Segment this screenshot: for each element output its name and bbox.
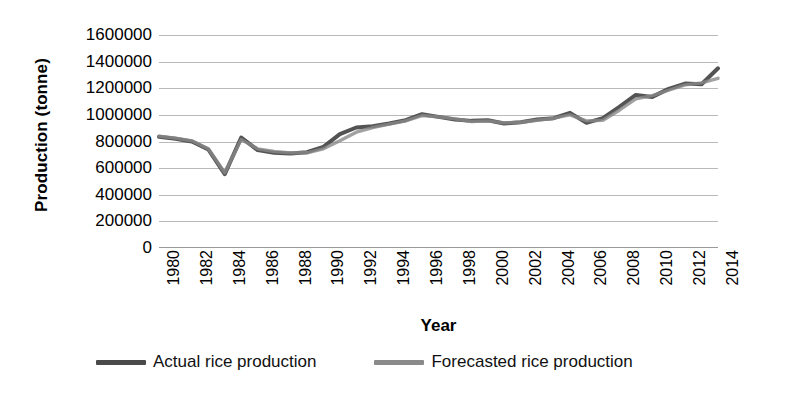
y-axis-tick-labels: 1600000140000012000001000000800000600000… [56,0,152,270]
x-tick-label: 1992 [362,250,380,286]
x-tick-label: 2000 [494,250,512,286]
x-tick-label: 1998 [461,250,479,286]
x-axis-tick-labels: 1980198219841986198819901992199419961998… [159,250,718,310]
x-tick-label: 2008 [625,250,643,286]
y-tick-label: 800000 [95,132,152,152]
x-tick-label: 1990 [329,250,347,286]
legend-label: Actual rice production [153,352,316,372]
y-tick-label: 1200000 [86,78,152,98]
x-tick-label: 2014 [724,250,742,286]
x-tick-label: 1986 [264,250,282,286]
y-tick-label: 600000 [95,158,152,178]
y-tick-label: 0 [143,238,152,258]
x-tick-label: 1982 [198,250,216,286]
x-tick-label: 1996 [428,250,446,286]
plot-area [159,35,718,248]
legend-swatch-icon [374,360,424,365]
legend-swatch-icon [96,360,146,365]
x-tick-label: 1984 [231,250,249,286]
rice-production-line-chart: Production (tonne) 160000014000001200000… [0,0,792,395]
x-tick-label: 2004 [560,250,578,286]
chart-legend: Actual rice productionForecasted rice pr… [96,352,716,372]
series-lines [159,35,718,248]
series-line [159,78,718,173]
x-tick-label: 2006 [592,250,610,286]
x-tick-label: 2002 [527,250,545,286]
x-tick-label: 1994 [395,250,413,286]
y-tick-label: 400000 [95,185,152,205]
y-tick-label: 200000 [95,211,152,231]
x-tick-label: 2012 [691,250,709,286]
y-tick-label: 1400000 [86,52,152,72]
x-tick-label: 2010 [658,250,676,286]
legend-item[interactable]: Actual rice production [96,352,316,372]
legend-label: Forecasted rice production [431,352,632,372]
y-axis-title: Production (tonne) [32,15,52,255]
y-tick-label: 1000000 [86,105,152,125]
x-tick-label: 1988 [297,250,315,286]
y-tick-label: 1600000 [86,25,152,45]
series-line [159,68,718,174]
x-axis-title: Year [159,316,718,336]
legend-item[interactable]: Forecasted rice production [374,352,632,372]
x-tick-label: 1980 [165,250,183,286]
